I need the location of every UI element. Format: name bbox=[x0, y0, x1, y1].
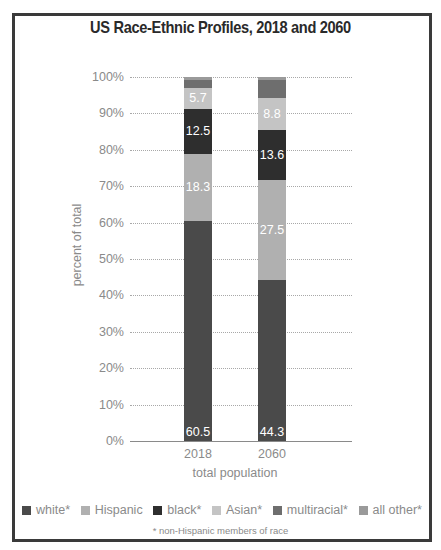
legend-item-multiracial: multiracial* bbox=[273, 503, 348, 517]
segment-white: 60.5 bbox=[184, 221, 212, 441]
segment-white: 44.3 bbox=[258, 280, 286, 441]
chart-title: US Race-Ethnic Profiles, 2018 and 2060 bbox=[31, 18, 410, 38]
y-tick-label: 60% bbox=[88, 216, 124, 230]
y-tick-label: 90% bbox=[88, 106, 124, 120]
legend-label: all other* bbox=[373, 503, 422, 517]
swatch-icon bbox=[273, 506, 282, 515]
y-tick-label: 0% bbox=[88, 434, 124, 448]
legend-item-all-other: all other* bbox=[359, 503, 422, 517]
gridline bbox=[130, 368, 352, 369]
x-axis-line bbox=[130, 441, 352, 442]
bar-2018: 60.518.312.55.7 bbox=[184, 77, 212, 441]
gridline bbox=[130, 259, 352, 260]
legend-label: white* bbox=[36, 503, 70, 517]
y-tick-label: 30% bbox=[88, 325, 124, 339]
legend-label: black* bbox=[167, 503, 201, 517]
legend-item-asian: Asian* bbox=[212, 503, 262, 517]
y-tick-label: 70% bbox=[88, 179, 124, 193]
y-tick-label: 20% bbox=[88, 361, 124, 375]
bar-2060: 44.327.513.68.8 bbox=[258, 77, 286, 441]
gridline bbox=[130, 113, 352, 114]
x-tick-2018: 2018 bbox=[168, 447, 228, 461]
swatch-icon bbox=[212, 506, 221, 515]
gridline bbox=[130, 405, 352, 406]
x-tick-2060: 2060 bbox=[242, 447, 302, 461]
segment-hispanic: 27.5 bbox=[258, 180, 286, 280]
segment-all-other bbox=[258, 77, 286, 80]
segment-hispanic: 18.3 bbox=[184, 154, 212, 221]
legend-label: multiracial* bbox=[287, 503, 348, 517]
segment-black: 12.5 bbox=[184, 109, 212, 155]
y-tick-label: 40% bbox=[88, 288, 124, 302]
segment-multiracial bbox=[184, 80, 212, 88]
legend-item-black: black* bbox=[153, 503, 201, 517]
y-tick-label: 10% bbox=[88, 398, 124, 412]
legend-item-white: white* bbox=[22, 503, 70, 517]
y-tick-label: 80% bbox=[88, 143, 124, 157]
segment-multiracial bbox=[258, 80, 286, 98]
swatch-icon bbox=[359, 506, 368, 515]
y-tick-label: 50% bbox=[88, 252, 124, 266]
y-axis-label: percent of total bbox=[70, 204, 84, 287]
x-axis-label: total population bbox=[175, 466, 295, 480]
y-tick-label: 100% bbox=[88, 70, 124, 84]
swatch-icon bbox=[153, 506, 162, 515]
swatch-icon bbox=[22, 506, 31, 515]
gridline bbox=[130, 332, 352, 333]
segment-asian: 5.7 bbox=[184, 88, 212, 109]
segment-asian: 8.8 bbox=[258, 98, 286, 130]
gridline bbox=[130, 77, 352, 78]
gridline bbox=[130, 186, 352, 187]
legend-item-hispanic: Hispanic bbox=[81, 503, 143, 517]
gridline bbox=[130, 223, 352, 224]
footnote: * non-Hispanic members of race bbox=[0, 525, 441, 536]
legend-label: Asian* bbox=[226, 503, 262, 517]
legend-label: Hispanic bbox=[95, 503, 143, 517]
legend: white* Hispanic black* Asian* multiracia… bbox=[22, 503, 422, 517]
gridline bbox=[130, 150, 352, 151]
gridline bbox=[130, 295, 352, 296]
segment-all-other bbox=[184, 77, 212, 80]
swatch-icon bbox=[81, 506, 90, 515]
segment-black: 13.6 bbox=[258, 130, 286, 180]
